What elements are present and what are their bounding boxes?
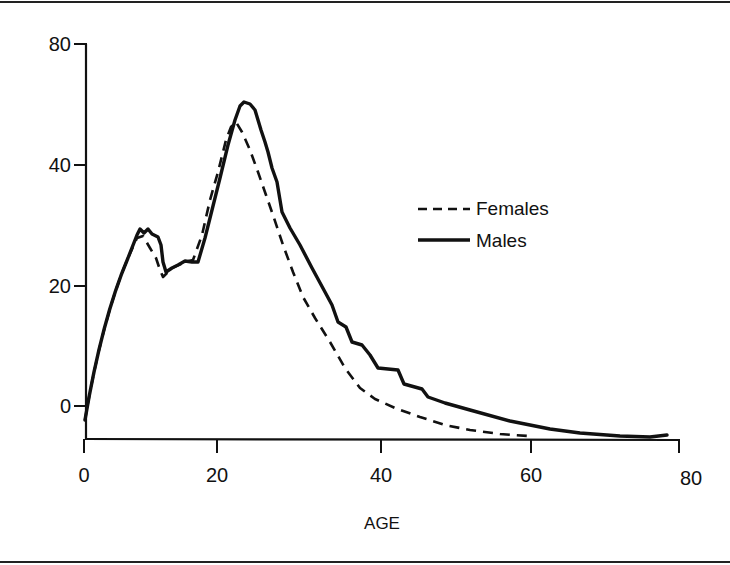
x-tick-label-80: 80 (680, 467, 702, 489)
y-axis: 80 40 20 0 (49, 33, 87, 440)
legend-item-females: Females (418, 198, 549, 219)
x-axis: 0 20 40 60 80 AGE (78, 439, 702, 533)
legend-label-females: Females (476, 198, 549, 219)
x-tick-label-20: 20 (206, 464, 228, 486)
x-tick-label-40: 40 (370, 464, 392, 486)
series-females-line (85, 122, 528, 436)
legend-label-males: Males (476, 230, 527, 251)
x-tick-label-60: 60 (520, 464, 542, 486)
chart-plot-area: 80 40 20 0 0 20 40 60 80 AGE Females Mal… (0, 0, 730, 565)
y-tick-label-20: 20 (49, 275, 71, 297)
y-tick-label-40: 40 (49, 154, 71, 176)
legend-item-males: Males (418, 230, 527, 251)
legend: Females Males (418, 198, 549, 251)
x-axis-title: AGE (364, 514, 400, 533)
series-males-line (85, 102, 667, 437)
y-tick-label-80: 80 (49, 33, 71, 55)
x-tick-label-0: 0 (78, 464, 89, 486)
y-tick-label-0: 0 (60, 395, 71, 417)
